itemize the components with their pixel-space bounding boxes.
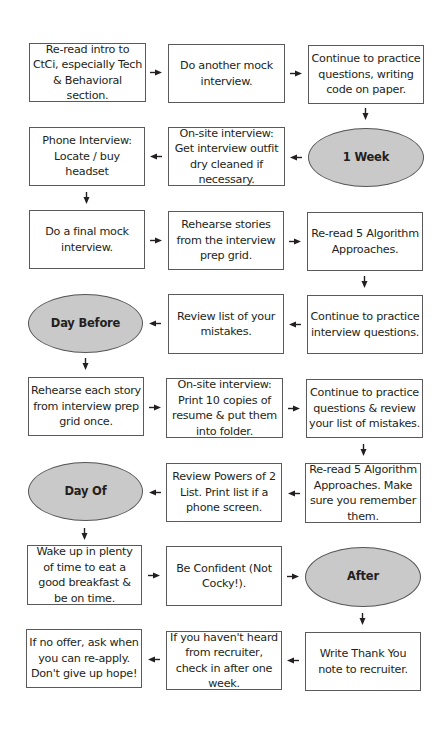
- arrow-down-icon: [82, 358, 89, 370]
- step-text: On-site interview: Get interview outfit …: [171, 126, 282, 188]
- arrow-right-icon: [148, 572, 160, 579]
- arrow-right-icon: [288, 405, 300, 412]
- arrow-left-icon: [149, 320, 161, 327]
- arrow-left-icon: [150, 153, 162, 160]
- milestone-text: After: [347, 569, 379, 585]
- step-text: Re-read 5 Algorithm Approaches.: [310, 226, 420, 257]
- arrow-left-icon: [287, 657, 299, 664]
- step-phone-headset: Phone Interview: Locate / buy headset: [29, 127, 145, 186]
- arrow-right-icon: [287, 573, 299, 580]
- arrow-down-icon: [362, 108, 369, 120]
- step-powers-of-2: Review Powers of 2 List. Print list if a…: [166, 463, 282, 522]
- step-reread-algorithms-remember: Re-read 5 Algorithm Approaches. Make sur…: [305, 463, 421, 523]
- arrow-down-icon: [361, 276, 368, 288]
- arrow-down-icon: [360, 444, 367, 456]
- step-rehearse-stories: Rehearse stories from the interview prep…: [168, 211, 284, 270]
- arrow-left-icon: [288, 490, 300, 497]
- arrow-down-icon: [83, 192, 90, 204]
- step-text: Rehearse each story from interview prep …: [31, 383, 141, 430]
- step-text: Phone Interview: Locate / buy headset: [32, 133, 142, 180]
- step-text: Continue to practice interview questions…: [310, 309, 420, 340]
- step-text: Rehearse stories from the interview prep…: [171, 217, 281, 264]
- arrow-right-icon: [289, 238, 301, 245]
- milestone-text: Day Before: [51, 316, 120, 332]
- step-text: Write Thank You note to recruiter.: [308, 646, 418, 677]
- step-wake-up-early: Wake up in plenty of time to eat a good …: [27, 545, 142, 605]
- step-thank-you-note: Write Thank You note to recruiter.: [305, 632, 421, 691]
- milestone-text: Day Of: [64, 484, 106, 500]
- step-be-confident: Be Confident (Not Cocky!).: [166, 546, 282, 606]
- step-practice-paper: Continue to practice questions, writing …: [308, 45, 424, 104]
- arrow-right-icon: [149, 404, 161, 411]
- step-text: On-site interview: Print 10 copies of re…: [169, 377, 280, 439]
- step-ask-reapply: If no offer, ask when you can re-apply. …: [26, 629, 142, 688]
- step-text: Be Confident (Not Cocky!).: [169, 561, 279, 592]
- step-text: If you haven't heard from recruiter, che…: [169, 630, 279, 692]
- step-text: Continue to practice questions & review …: [309, 385, 420, 432]
- milestone-text: 1 Week: [343, 150, 389, 166]
- arrow-down-icon: [359, 613, 366, 625]
- arrow-right-icon: [150, 237, 162, 244]
- arrow-left-icon: [290, 154, 302, 161]
- step-text: Do another mock interview.: [171, 58, 282, 89]
- step-review-mistakes: Review list of your mistakes.: [168, 294, 284, 354]
- arrow-down-icon: [81, 528, 88, 540]
- step-rehearse-each-story: Rehearse each story from interview prep …: [28, 377, 144, 436]
- step-final-mock: Do a final mock interview.: [29, 210, 145, 269]
- step-practice-review-mistakes: Continue to practice questions & review …: [306, 379, 423, 438]
- milestone-day-of: Day Of: [28, 462, 143, 521]
- arrow-left-icon: [148, 656, 160, 663]
- step-outfit-dry-clean: On-site interview: Get interview outfit …: [168, 127, 285, 186]
- step-text: Re-read 5 Algorithm Approaches. Make sur…: [308, 462, 418, 524]
- step-practice-questions: Continue to practice interview questions…: [307, 295, 423, 354]
- step-mock-interview: Do another mock interview.: [168, 44, 285, 103]
- step-text: Continue to practice questions, writing …: [311, 51, 421, 98]
- milestone-1-week: 1 Week: [308, 128, 424, 187]
- step-text: If no offer, ask when you can re-apply. …: [29, 635, 139, 682]
- milestone-after: After: [305, 547, 421, 607]
- step-text: Wake up in plenty of time to eat a good …: [30, 544, 139, 606]
- step-print-resumes: On-site interview: Print 10 copies of re…: [166, 378, 283, 438]
- step-reread-algorithms: Re-read 5 Algorithm Approaches.: [307, 212, 423, 271]
- step-check-in-recruiter: If you haven't heard from recruiter, che…: [166, 631, 282, 690]
- step-reread-intro: Re-read intro to CtCi, especially Tech &…: [29, 43, 146, 102]
- arrow-left-icon: [149, 489, 161, 496]
- step-text: Re-read intro to CtCi, especially Tech &…: [32, 42, 143, 104]
- arrow-right-icon: [150, 69, 162, 76]
- arrow-right-icon: [290, 70, 302, 77]
- arrow-left-icon: [289, 321, 301, 328]
- step-text: Do a final mock interview.: [32, 224, 142, 255]
- milestone-day-before: Day Before: [28, 294, 143, 353]
- step-text: Review list of your mistakes.: [171, 309, 281, 340]
- step-text: Review Powers of 2 List. Print list if a…: [169, 469, 279, 516]
